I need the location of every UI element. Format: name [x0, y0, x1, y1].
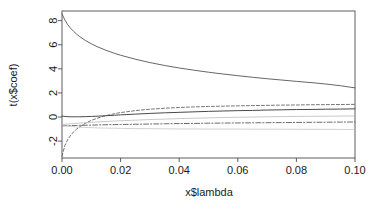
plot-canvas: 0.000.020.040.060.080.10 86420-2 x$lambd… [0, 0, 372, 211]
figure-background [0, 0, 372, 211]
x-tick-label: 0.00 [51, 164, 72, 176]
y-axis-title: t(x$coef) [7, 64, 19, 107]
y-tick-label: 2 [47, 90, 59, 96]
x-tick-label: 0.10 [344, 164, 365, 176]
x-tick-label: 0.04 [168, 164, 189, 176]
x-tick-label: 0.08 [286, 164, 307, 176]
x-tick-label: 0.06 [227, 164, 248, 176]
r-plot-figure: 0.000.020.040.060.080.10 86420-2 x$lambd… [0, 0, 372, 211]
y-tick-label: 4 [47, 66, 59, 72]
x-tick-label: 0.02 [110, 164, 131, 176]
y-tick-label: -2 [47, 136, 59, 146]
y-tick-label: 8 [47, 18, 59, 24]
y-tick-label: 6 [47, 42, 59, 48]
y-tick-label: 0 [47, 114, 59, 120]
x-axis-title: x$lambda [185, 186, 234, 198]
